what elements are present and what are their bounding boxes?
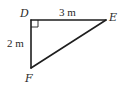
side-label-DF: 2 m (7, 37, 24, 49)
right-triangle-diagram: D E F 3 m 2 m (0, 0, 121, 94)
side-EF (31, 20, 106, 68)
vertex-label-F: F (24, 72, 33, 85)
vertex-label-E: E (108, 11, 117, 24)
right-angle-marker (31, 20, 38, 27)
vertex-label-D: D (19, 7, 29, 20)
side-label-DE: 3 m (59, 6, 76, 18)
